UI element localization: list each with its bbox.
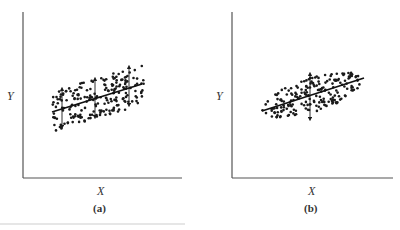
panel-a-x-label: X: [96, 184, 105, 198]
panel-a-regression-line: [52, 84, 142, 112]
panel-b: Y X (b): [216, 12, 393, 215]
panel-a: Y X (a): [7, 12, 182, 215]
panel-b-x-label: X: [307, 184, 316, 198]
panel-b-caption: (b): [304, 202, 318, 215]
figure: Y X (a) Y X (b): [0, 0, 400, 230]
panel-b-y-label: Y: [216, 89, 224, 103]
panel-a-y-label: Y: [7, 89, 15, 103]
panel-a-caption: (a): [93, 202, 106, 215]
